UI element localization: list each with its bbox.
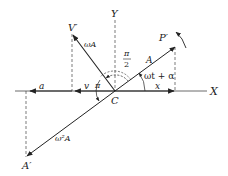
- origin-label: C: [111, 95, 119, 106]
- pi-half-arc-outer: [100, 71, 131, 80]
- phase-label: ωt + α: [144, 71, 174, 81]
- v-prime-label: V′: [68, 22, 78, 33]
- pi-half-denominator: 2: [124, 60, 129, 69]
- x-label: x: [155, 81, 160, 91]
- acceleration-vector: [27, 91, 115, 156]
- a-label: a: [39, 81, 44, 91]
- x-axis-label: X: [209, 85, 219, 98]
- accel-amp-label: ω²A: [55, 134, 71, 143]
- v-label: v: [84, 81, 89, 91]
- pi-label: π: [94, 81, 101, 90]
- a-prime-label: A′: [21, 160, 32, 171]
- pi-half-numerator: π: [123, 49, 130, 58]
- pi-half-arc: [106, 75, 128, 81]
- phasor-diagram: X Y C P′ V′ A′ A ωA ω²A ωt + α π 2 π x v…: [0, 0, 228, 176]
- rotation-arrow-icon: [176, 32, 186, 48]
- amplitude-label: A: [145, 55, 153, 65]
- p-prime-label: P′: [158, 32, 169, 43]
- y-axis-label: Y: [111, 8, 119, 19]
- velocity-amp-label: ωA: [84, 40, 97, 49]
